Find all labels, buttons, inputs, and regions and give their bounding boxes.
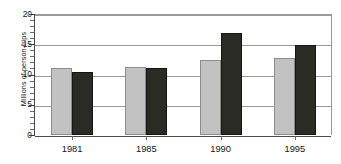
- bar-1990-series-b: [221, 33, 242, 135]
- y-minor-tick-16: [30, 38, 34, 39]
- y-minor-tick-4: [30, 111, 34, 112]
- y-minor-tick-3: [30, 117, 34, 118]
- bar-1995-series-b: [295, 45, 316, 135]
- y-minor-tick-1: [30, 129, 34, 130]
- y-minor-tick-2: [30, 123, 34, 124]
- bar-1981-series-a: [51, 68, 72, 135]
- y-major-tick-0: [29, 135, 35, 136]
- y-minor-tick-8: [30, 87, 34, 88]
- bar-1990-series-a: [200, 60, 221, 135]
- x-tick-1985: [146, 136, 147, 140]
- y-major-tick-20: [29, 14, 35, 15]
- bar-1995-series-a: [274, 58, 295, 135]
- y-axis-tick-labels: 05101520: [6, 0, 32, 164]
- y-minor-tick-14: [30, 50, 34, 51]
- gridline-y-0: [35, 136, 331, 137]
- x-tick-1990: [221, 136, 222, 140]
- y-major-tick-10: [29, 75, 35, 76]
- bar-1985-series-a: [125, 67, 146, 135]
- x-tick-label-1985: 1985: [116, 144, 176, 155]
- y-minor-tick-13: [30, 56, 34, 57]
- bar-chart: Millions of person-trips 05101520 198119…: [0, 0, 341, 164]
- bar-1981-series-b: [72, 72, 93, 135]
- y-minor-tick-19: [30, 20, 34, 21]
- gridline-y-15: [35, 45, 331, 46]
- y-minor-tick-6: [30, 99, 34, 100]
- y-major-tick-15: [29, 44, 35, 45]
- plot-area: [35, 14, 332, 135]
- y-minor-tick-7: [30, 93, 34, 94]
- y-minor-tick-9: [30, 81, 34, 82]
- y-minor-tick-11: [30, 68, 34, 69]
- x-tick-label-1990: 1990: [191, 144, 251, 155]
- y-minor-tick-12: [30, 62, 34, 63]
- y-minor-tick-17: [30, 32, 34, 33]
- x-tick-1981: [72, 136, 73, 140]
- bar-1985-series-b: [146, 68, 167, 135]
- x-tick-label-1981: 1981: [42, 144, 102, 155]
- y-major-tick-5: [29, 105, 35, 106]
- x-tick-label-1995: 1995: [265, 144, 325, 155]
- gridline-y-20: [35, 15, 331, 16]
- x-tick-1995: [295, 136, 296, 140]
- y-minor-tick-18: [30, 26, 34, 27]
